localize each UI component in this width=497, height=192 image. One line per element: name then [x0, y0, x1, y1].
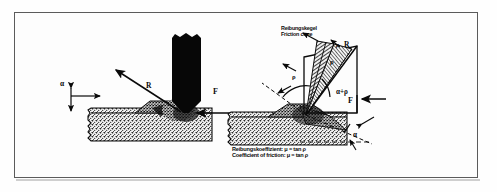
- friction-cone-callout: Reibungskegel Friction cone: [281, 26, 317, 38]
- friction-coefficient-en: Coefficient of friction: μ = tan ρ: [232, 152, 308, 158]
- friction-cone-callout-en: Friction cone: [281, 32, 317, 38]
- right-friction-angle-top-label: ρ: [336, 41, 339, 48]
- right-resultant-force-label: R: [344, 40, 349, 49]
- left-rake-angle-label: α: [60, 79, 64, 88]
- friction-cone-wedge: [306, 41, 352, 115]
- figure-root: Reibungskegel Friction cone Reibungskoef…: [0, 0, 497, 192]
- diagram-stage: [0, 0, 497, 192]
- left-diagram-group: [71, 33, 236, 141]
- left-cutting-tool: [172, 33, 201, 113]
- diagram-svg: [0, 0, 497, 192]
- left-resultant-force-label: R: [146, 81, 151, 90]
- right-friction-angle-left-label: ρ: [292, 73, 296, 80]
- right-friction-angle-cone-label: ρ: [330, 58, 334, 66]
- right-cutting-force-label: F: [348, 96, 353, 105]
- left-cutting-force-label: F: [213, 87, 218, 96]
- right-diagram-group: [228, 33, 386, 150]
- friction-coefficient-formula: Reibungskoeffizient: μ = tan ρ Coefficie…: [232, 146, 308, 158]
- right-force-F-arrow: [357, 95, 386, 113]
- right-rake-angle-label: α: [353, 131, 357, 139]
- right-combined-angle-label: α+ρ: [336, 88, 348, 96]
